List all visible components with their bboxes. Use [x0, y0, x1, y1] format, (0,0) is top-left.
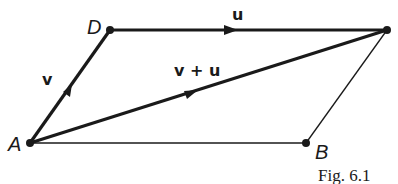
parallelogram-diagram — [0, 0, 398, 184]
arrowhead-u — [224, 25, 238, 35]
point-A — [26, 139, 34, 147]
figure-caption: Fig. 6.1 — [318, 167, 370, 184]
label-vector-u: u — [232, 7, 243, 23]
label-B: B — [315, 142, 328, 162]
edge-BC — [306, 30, 387, 143]
label-A: A — [8, 134, 21, 154]
arrowhead-v-plus-u — [184, 90, 198, 99]
vector-v-plus-u — [30, 30, 387, 143]
label-vector-v: v — [42, 72, 52, 88]
label-D: D — [87, 17, 101, 37]
label-vector-v-plus-u: v + u — [174, 63, 220, 79]
point-D — [106, 26, 114, 34]
point-C — [383, 26, 391, 34]
point-B — [302, 139, 310, 147]
